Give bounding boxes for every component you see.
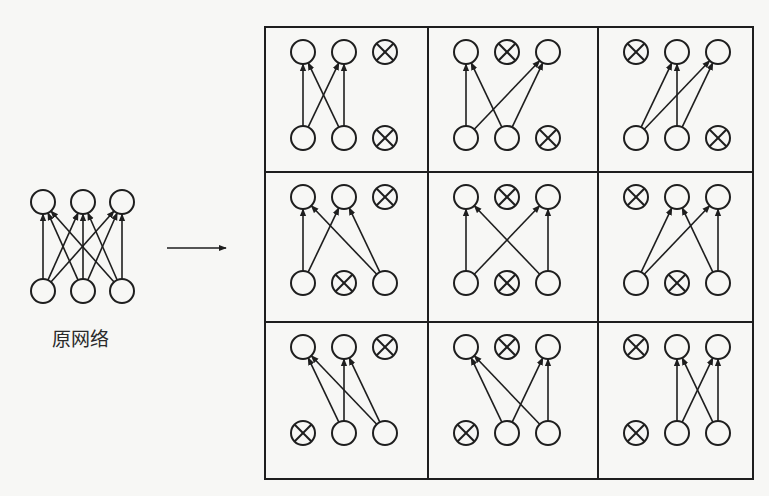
neuron-node (454, 271, 478, 295)
original-network-label: 原网络 (52, 324, 109, 351)
neuron-node (31, 279, 55, 303)
neuron-node (454, 335, 478, 359)
subnetwork-cell (291, 335, 397, 445)
neuron-node (332, 126, 356, 150)
neuron-node (665, 421, 689, 445)
neuron-node (624, 271, 648, 295)
neuron-node (291, 335, 315, 359)
neuron-node (495, 421, 519, 445)
neuron-node (536, 185, 560, 209)
neuron-node (454, 126, 478, 150)
neuron-node (706, 335, 730, 359)
connection-edge (311, 206, 376, 275)
neuron-node (665, 40, 689, 64)
neuron-node (706, 421, 730, 445)
neuron-node (332, 421, 356, 445)
neuron-node (291, 185, 315, 209)
grid-border (265, 27, 753, 479)
neuron-node (624, 126, 648, 150)
neuron-node (536, 40, 560, 64)
subnetwork-cell (454, 40, 560, 150)
subnetwork-cell (624, 40, 730, 150)
connection-edge (474, 61, 539, 130)
subnetwork-cell (624, 185, 730, 295)
neuron-node (291, 40, 315, 64)
neuron-node (536, 271, 560, 295)
neuron-node (373, 421, 397, 445)
neuron-node (706, 271, 730, 295)
neuron-node (332, 185, 356, 209)
neuron-node (71, 190, 95, 214)
neuron-node (291, 126, 315, 150)
neuron-node (665, 126, 689, 150)
subnetwork-cell (454, 335, 560, 445)
neuron-node (373, 271, 397, 295)
neuron-node (291, 271, 315, 295)
neuron-node (332, 335, 356, 359)
neuron-node (665, 335, 689, 359)
connection-edge (644, 206, 709, 275)
subnetwork-cell (291, 40, 397, 150)
subnetwork-cell (454, 185, 560, 295)
original-network (31, 190, 134, 303)
dropout-diagram (0, 0, 769, 496)
neuron-node (454, 185, 478, 209)
subnetwork-cell (291, 185, 397, 295)
neuron-node (706, 40, 730, 64)
subnetwork-cell (624, 335, 730, 445)
neuron-node (495, 126, 519, 150)
connection-edge (474, 356, 539, 425)
neuron-node (332, 40, 356, 64)
neuron-node (110, 190, 134, 214)
dropout-subnetworks-grid (265, 27, 753, 479)
neuron-node (71, 279, 95, 303)
neuron-node (110, 279, 134, 303)
neuron-node (31, 190, 55, 214)
neuron-node (665, 185, 689, 209)
neuron-node (454, 40, 478, 64)
neuron-node (536, 421, 560, 445)
neuron-node (536, 335, 560, 359)
neuron-node (706, 185, 730, 209)
